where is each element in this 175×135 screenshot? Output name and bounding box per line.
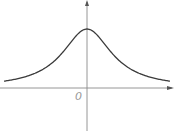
x-axis-arrow-icon [167,86,174,90]
y-axis-arrow-icon [85,0,89,6]
function-graph [0,0,175,135]
origin-label: 0 [75,91,82,102]
